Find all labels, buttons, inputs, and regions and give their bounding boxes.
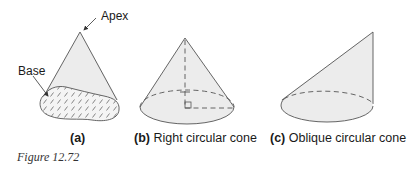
panel-b-right-cone [140,38,234,124]
caption-b-title: Right circular cone [153,131,257,145]
base-arrow [33,76,48,96]
caption-c-tag: (c) [270,131,285,145]
base-label: Base [18,64,45,78]
caption-a: (a) [70,131,85,145]
figure-number: Figure 12.72 [17,150,79,165]
caption-c: (c) Oblique circular cone [270,131,406,145]
apex-arrow [84,18,96,30]
panel-c-oblique-cone [281,32,373,122]
cone-b-body [140,38,234,124]
caption-b-tag: (b) [134,131,150,145]
apex-label: Apex [101,9,128,23]
caption-c-title: Oblique circular cone [289,131,406,145]
caption-a-tag: (a) [70,131,85,145]
caption-b: (b) Right circular cone [134,131,257,145]
panel-a-general-cone [33,18,119,121]
